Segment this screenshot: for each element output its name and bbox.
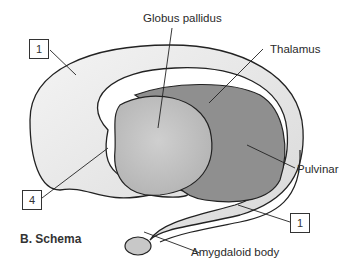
amygdaloid-body (125, 237, 151, 255)
number-box-4: 4 (22, 190, 42, 210)
number-box-1-top: 1 (29, 39, 49, 59)
number-box-1-bottom: 1 (290, 213, 310, 233)
figure-title: B. Schema (20, 232, 81, 246)
label-amygdaloid-body: Amygdaloid body (191, 246, 279, 258)
label-pulvinar: Pulvinar (297, 163, 339, 175)
label-thalamus: Thalamus (270, 43, 321, 55)
label-globus-pallidus: Globus pallidus (143, 12, 222, 24)
globus-pallidus (115, 96, 212, 195)
